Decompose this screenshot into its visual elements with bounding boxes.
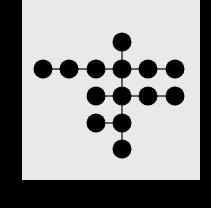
diagram-stage xyxy=(0,0,211,208)
node-n1 xyxy=(113,33,132,52)
node-n13 xyxy=(113,114,132,133)
node-n4 xyxy=(87,60,106,79)
node-n11 xyxy=(166,87,185,106)
node-n10 xyxy=(139,87,158,106)
node-n14 xyxy=(113,140,132,159)
node-n5 xyxy=(113,60,132,79)
node-graph xyxy=(0,0,211,208)
node-n2 xyxy=(34,60,53,79)
node-n7 xyxy=(166,60,185,79)
node-n12 xyxy=(87,114,106,133)
node-n6 xyxy=(139,60,158,79)
node-n9 xyxy=(113,87,132,106)
node-n3 xyxy=(60,60,79,79)
node-n8 xyxy=(87,87,106,106)
